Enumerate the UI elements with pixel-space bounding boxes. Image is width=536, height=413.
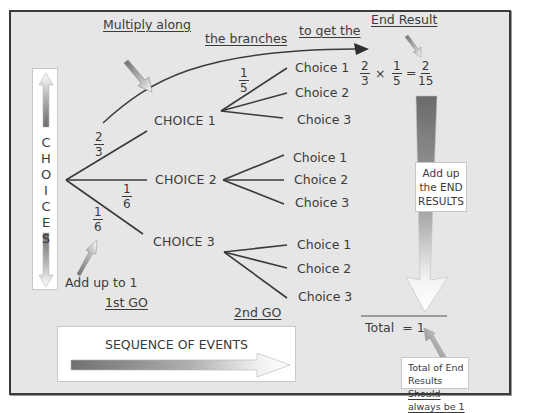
denominator: 6 xyxy=(94,220,102,233)
add-up-end-results-box: Add up the END RESULTS xyxy=(415,162,467,212)
letter: C xyxy=(33,199,59,215)
prob-choice-3: 1 6 xyxy=(93,206,103,233)
prob-choice-2: 1 6 xyxy=(122,183,132,210)
add-up-line-2: the END xyxy=(416,180,466,194)
numerator: 1 xyxy=(392,60,402,74)
choice-1-3: Choice 3 xyxy=(297,114,351,127)
letter: H xyxy=(33,151,59,167)
formula-result: 2 15 xyxy=(418,60,433,87)
denominator: 6 xyxy=(123,197,131,210)
choice-1-2: Choice 2 xyxy=(295,87,349,100)
add-up-to-1-label: Add up to 1 xyxy=(65,277,137,290)
choice-2-first-level: CHOICE 2 xyxy=(155,174,217,187)
the-branches-label: the branches xyxy=(205,33,287,46)
formula-b: 1 5 xyxy=(392,60,402,87)
denominator: 3 xyxy=(95,145,103,158)
letter: S xyxy=(33,231,59,247)
numerator: 1 xyxy=(93,206,103,220)
sequence-of-events-box: SEQUENCE OF EVENTS xyxy=(57,326,296,382)
total-label: Total xyxy=(365,320,394,335)
to-get-the-label: to get the xyxy=(299,25,361,38)
numerator: 1 xyxy=(239,67,249,81)
sequence-arrow-icon xyxy=(58,327,297,383)
choice-2-1: Choice 1 xyxy=(293,152,347,165)
choice-3-1: Choice 1 xyxy=(297,239,351,252)
total-note-box: Total of End Results Should always be 1 xyxy=(401,357,469,389)
add-up-line-1: Add up xyxy=(416,166,466,180)
second-go-label: 2nd GO xyxy=(234,307,281,320)
total-note-line-2: Should always be 1 xyxy=(408,387,468,413)
choice-1-1: Choice 1 xyxy=(295,62,349,75)
denominator: 15 xyxy=(418,74,433,87)
letter: O xyxy=(33,167,59,183)
numerator: 2 xyxy=(421,60,431,74)
add-up-line-3: RESULTS xyxy=(416,194,466,208)
choice-2-2: Choice 2 xyxy=(294,174,348,187)
multiply-along-label: Multiply along xyxy=(103,19,191,32)
choices-box: C H O I C E S xyxy=(32,68,58,290)
choice-2-3: Choice 3 xyxy=(295,197,349,210)
formula-a: 2 3 xyxy=(360,60,370,87)
end-result-label: End Result xyxy=(371,14,437,27)
total-value: 1 xyxy=(417,320,425,335)
multiply-pointer-arrow xyxy=(124,60,152,92)
choices-vertical-label: C H O I C E S xyxy=(33,135,59,247)
numerator: 1 xyxy=(122,183,132,197)
prob-choice-1: 2 3 xyxy=(94,131,104,158)
denominator: 5 xyxy=(393,74,401,87)
choice-1-first-level: CHOICE 1 xyxy=(154,115,216,128)
letter: E xyxy=(33,215,59,231)
formula-equals: = xyxy=(406,67,416,80)
total-note-line-1: Total of End Results xyxy=(408,361,468,387)
total-equals: = xyxy=(402,320,412,335)
total-equation: Total = 1 xyxy=(365,320,425,335)
numerator: 2 xyxy=(360,60,370,74)
letter: I xyxy=(33,183,59,199)
numerator: 2 xyxy=(94,131,104,145)
choice-3-first-level: CHOICE 3 xyxy=(153,236,215,249)
prob-choice-1-1: 1 5 xyxy=(239,67,249,94)
letter: C xyxy=(33,135,59,151)
first-go-label: 1st GO xyxy=(105,297,148,310)
denominator: 3 xyxy=(361,74,369,87)
choice-3-2: Choice 2 xyxy=(297,263,351,276)
denominator: 5 xyxy=(240,81,248,94)
choice-3-3: Choice 3 xyxy=(298,291,352,304)
formula-times: × xyxy=(375,68,385,81)
